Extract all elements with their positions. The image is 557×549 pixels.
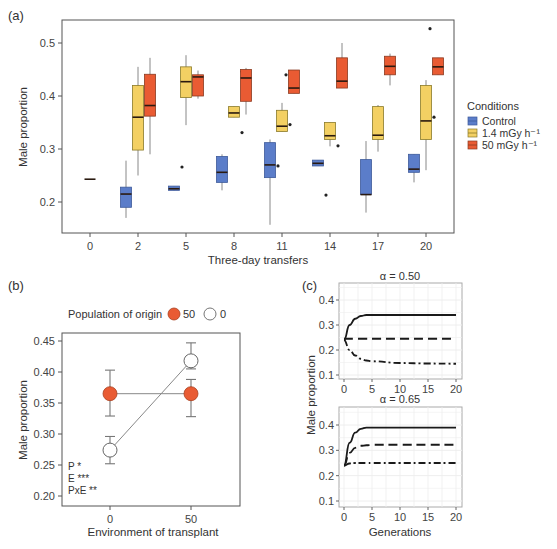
x-tick-label: 0 [87,240,93,252]
y-tick-label: 0.1 [319,369,334,381]
x-axis-title: Environment of transplant [87,526,219,538]
legend-label: Control [482,115,516,127]
y-tick-label: 0.40 [34,366,55,378]
significance-annotation: E *** [68,473,89,484]
y-tick-label: 0.45 [34,335,55,347]
x-tick-label: 20 [450,383,462,395]
figure: (a)0.20.30.40.5025811141720Three-day tra… [0,0,557,549]
outlier-point [432,116,435,119]
y-tick-label: 0.30 [34,428,55,440]
outlier-point [180,165,183,168]
legend-label: 50 mGy h⁻¹ [482,139,538,151]
panel-label: (b) [8,278,24,293]
x-tick-label: 11 [276,240,287,252]
y-tick-label: 0.5 [40,37,55,49]
outlier-point [336,144,339,147]
facet-title: α = 0.65 [380,393,420,405]
legend-marker-open [204,308,216,320]
y-tick-label: 0.2 [319,470,334,482]
panel-b: (b)Population of origin5000.200.250.300.… [8,278,240,538]
x-axis-title: Three-day transfers [208,254,309,266]
data-point-open [184,354,198,368]
legend-marker-filled [168,308,180,320]
y-tick-label: 0.4 [319,294,334,306]
y-tick-label: 0.3 [319,319,334,331]
y-tick-label: 0.35 [34,397,55,409]
x-tick-label: 0 [341,383,347,395]
outlier-point [284,73,287,76]
facet-1: α = 0.650.10.20.30.405101520 [319,393,462,523]
legend-title: Conditions [467,100,519,112]
x-tick-label: 50 [185,513,197,525]
x-tick-label: 10 [394,511,406,523]
legend: ConditionsControl1.4 mGy h⁻¹50 mGy h⁻¹ [467,100,540,151]
box-2-5 [193,71,204,99]
facet-0: α = 0.500.10.20.30.405101520 [319,270,462,395]
legend: Population of origin500 [68,308,226,320]
x-tick-label: 0 [107,513,113,525]
panel-c: (c)α = 0.500.10.20.30.405101520α = 0.650… [302,270,462,538]
panel-label: (a) [8,8,24,23]
x-tick-label: 5 [369,383,375,395]
data-point-open [103,443,117,457]
x-tick-label: 17 [372,240,384,252]
legend-label: 0 [220,308,226,320]
y-tick-label: 0.25 [34,459,55,471]
y-tick-label: 0.20 [34,490,55,502]
y-tick-label: 0.2 [40,196,55,208]
x-tick-label: 8 [231,240,237,252]
outlier-point [324,194,327,197]
x-axis-title: Generations [369,526,432,538]
significance-annotation: PxE ** [68,485,97,496]
legend-label: 1.4 mGy h⁻¹ [482,127,540,139]
outlier-point [276,164,279,167]
x-tick-label: 15 [422,511,434,523]
outlier-point [240,131,243,134]
x-tick-label: 0 [341,511,347,523]
facet-frame [339,407,462,507]
data-point-filled [184,387,198,401]
outlier-point [288,123,291,126]
significance-annotation: P * [68,461,81,472]
data-point-filled [103,387,117,401]
x-tick-label: 5 [369,511,375,523]
y-tick-label: 0.2 [319,344,334,356]
y-tick-label: 0.3 [319,444,334,456]
y-tick-label: 0.3 [40,143,55,155]
y-tick-label: 0.4 [40,90,55,102]
y-axis-title: Male proportion [17,380,29,460]
panel-a: (a)0.20.30.40.5025811141720Three-day tra… [8,8,540,266]
facet-title: α = 0.50 [380,270,420,282]
x-tick-label: 14 [324,240,336,252]
x-tick-label: 15 [422,383,434,395]
legend-label: 50 [183,308,195,320]
outlier-point [428,27,431,30]
x-tick-label: 20 [420,240,432,252]
legend-title: Population of origin [68,308,162,320]
x-tick-label: 20 [450,511,462,523]
facet-frame [339,283,462,379]
x-tick-label: 5 [183,240,189,252]
y-axis-title: Male proportion [305,355,317,435]
panel-label: (c) [302,278,317,293]
y-tick-label: 0.4 [319,419,334,431]
x-tick-label: 2 [135,240,141,252]
y-tick-label: 0.1 [319,495,334,507]
y-axis-title: Male proportion [17,87,29,167]
